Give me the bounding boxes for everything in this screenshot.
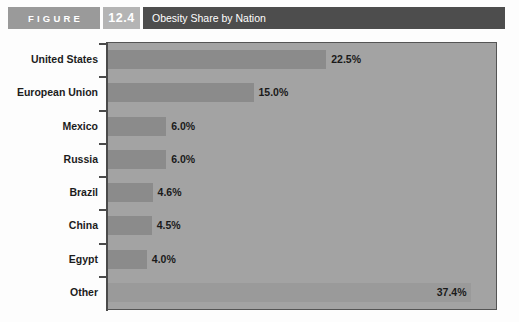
category-label: United States [31,43,98,76]
figure-page: FIGURE 12.4 Obesity Share by Nation Unit… [0,0,519,322]
category-label: Brazil [69,176,98,209]
figure-number: 12.4 [103,7,140,29]
axis-tick [99,276,107,278]
bar-value-label: 22.5% [331,50,361,69]
bar-row: Brazil4.6% [0,176,519,209]
bar-value-label: 37.4% [437,283,467,302]
axis-tick [99,243,107,245]
category-label: Other [70,276,98,309]
category-label: Russia [64,143,98,176]
category-label: European Union [17,76,98,109]
axis-tick [99,143,107,145]
bar-row: United States22.5% [0,43,519,76]
bar [108,150,166,169]
bar-value-label: 4.0% [152,250,176,269]
bar-row: China4.5% [0,209,519,242]
bar [108,83,254,102]
figure-title: Obesity Share by Nation [143,7,505,29]
bar-row: Mexico6.0% [0,110,519,143]
bar-value-label: 4.6% [158,183,182,202]
category-label: China [69,209,98,242]
bar-rows: United States22.5%European Union15.0%Mex… [0,43,519,309]
figure-label: FIGURE [8,7,100,29]
bar [108,183,153,202]
bar [108,216,152,235]
bar-row: European Union15.0% [0,76,519,109]
figure-header: FIGURE 12.4 Obesity Share by Nation [8,7,505,29]
bar-value-label: 4.5% [157,216,181,235]
bar [108,283,471,302]
bar-chart: United States22.5%European Union15.0%Mex… [0,36,519,316]
bar-value-label: 6.0% [171,117,195,136]
axis-tick [99,176,107,178]
bar-value-label: 15.0% [259,83,289,102]
bar-value-label: 6.0% [171,150,195,169]
bar [108,117,166,136]
axis-tick [99,43,107,45]
bar-row: Russia6.0% [0,143,519,176]
axis-tick [99,209,107,211]
bar-row: Egypt4.0% [0,243,519,276]
axis-tick [99,76,107,78]
category-label: Mexico [62,110,98,143]
axis-tick [99,110,107,112]
category-label: Egypt [69,243,98,276]
bar [108,250,147,269]
bar [108,50,326,69]
bar-row: Other37.4% [0,276,519,309]
